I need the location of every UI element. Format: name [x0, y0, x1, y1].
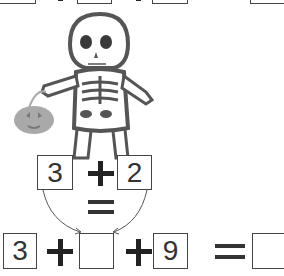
hint-right-box: 2	[117, 155, 152, 190]
equation-c-box: 9	[153, 233, 188, 269]
plus-1-v	[58, 239, 63, 266]
equals-top	[215, 244, 245, 248]
pelvis-left	[80, 110, 92, 118]
jack-o-lantern	[14, 106, 54, 134]
answer-box[interactable]	[252, 233, 284, 269]
hint-equals-bottom	[88, 210, 114, 214]
right-eye	[100, 35, 112, 49]
arrow-right	[114, 190, 147, 232]
hint-equals-top	[88, 200, 114, 204]
left-eye	[80, 35, 92, 49]
skeleton-left-arm	[42, 76, 78, 96]
plus-2-v	[136, 239, 141, 266]
skeleton-illustration	[0, 0, 284, 276]
equation-a-box: 3	[3, 233, 37, 269]
hint-plus-v	[98, 161, 103, 186]
hint-left-box: 3	[37, 155, 73, 190]
arrow-left	[43, 190, 80, 232]
equals-bottom	[215, 255, 245, 259]
equation-b-box[interactable]	[79, 233, 114, 269]
skeleton-skull	[70, 14, 128, 68]
pelvis-right	[100, 110, 112, 118]
